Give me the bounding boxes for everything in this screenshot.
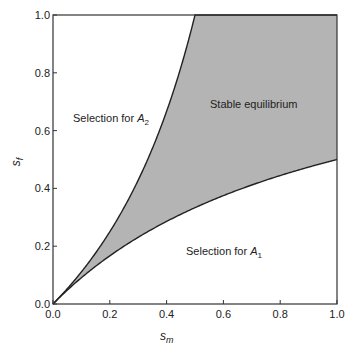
y-tick-label: 0.4: [35, 182, 50, 194]
x-axis-label: sm: [160, 329, 174, 345]
y-tick-label: 1.0: [35, 9, 50, 21]
x-tick-label: 1.0: [329, 308, 344, 320]
y-tick-label: 0.8: [35, 67, 50, 79]
x-axis-tick-labels: 0.0 0.2 0.4 0.6 0.8 1.0: [45, 308, 344, 320]
x-tick-label: 0.4: [159, 308, 174, 320]
x-tick-label: 0.2: [102, 308, 117, 320]
region-label-selection-a2: Selection for A2: [73, 112, 150, 127]
region-label-selection-a1: Selection for A1: [186, 245, 263, 260]
y-tick-label: 0.6: [35, 125, 50, 137]
region-label-stable-equilibrium: Stable equilibrium: [210, 98, 297, 110]
x-tick-label: 0.6: [216, 308, 231, 320]
y-axis-label: sf: [9, 156, 25, 166]
y-axis-tick-labels: 0.0 0.2 0.4 0.6 0.8 1.0: [35, 9, 50, 310]
x-tick-label: 0.8: [273, 308, 288, 320]
y-tick-label: 0.0: [35, 298, 50, 310]
y-tick-label: 0.2: [35, 240, 50, 252]
phase-diagram: 0.0 0.2 0.4 0.6 0.8 1.0 0.0 0.2 0.4 0.6 …: [0, 0, 360, 354]
stable-equilibrium-region: [53, 15, 337, 304]
